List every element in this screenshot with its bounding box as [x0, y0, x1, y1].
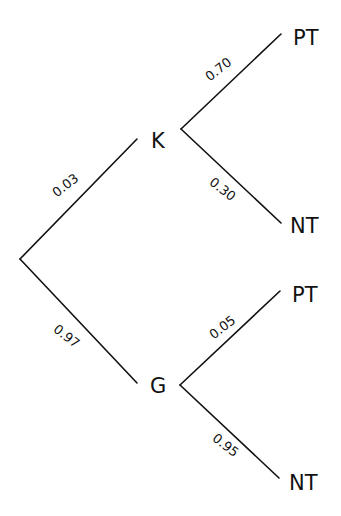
node-k-label: K — [151, 129, 166, 153]
prob-g-pt-label: 0.05 — [206, 312, 238, 342]
edge-g-to-nt — [180, 385, 279, 478]
outcome-k-pt-label: PT — [293, 26, 319, 50]
edge-k-to-pt — [181, 34, 281, 129]
prob-root-g-label: 0.97 — [51, 321, 83, 351]
edge-root-to-k — [20, 139, 137, 259]
outcome-k-nt-label: NT — [290, 214, 319, 238]
outcome-g-pt-label: PT — [292, 283, 318, 307]
edge-root-to-g — [20, 259, 137, 383]
edge-g-to-pt — [180, 291, 280, 385]
probability-tree-diagram: K G PT NT PT NT 0.03 0.97 0.70 0.30 0.05… — [0, 0, 341, 516]
outcome-g-nt-label: NT — [289, 471, 318, 495]
node-g-label: G — [150, 374, 166, 398]
prob-k-pt-label: 0.70 — [202, 54, 234, 84]
prob-root-k-label: 0.03 — [49, 170, 81, 200]
edge-k-to-nt — [181, 129, 281, 223]
prob-g-nt-label: 0.95 — [210, 430, 242, 460]
